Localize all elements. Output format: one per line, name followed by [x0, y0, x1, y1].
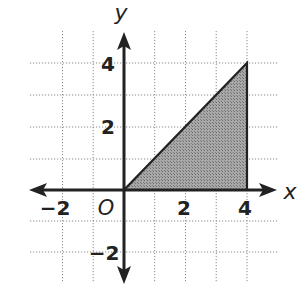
- x-tick-label-2: 2: [177, 196, 191, 220]
- y-tick-label-4: 4: [101, 52, 115, 76]
- y-axis-label: y: [113, 0, 128, 25]
- y-tick-label-neg2: −2: [89, 241, 120, 265]
- y-tick-label-2: 2: [101, 115, 115, 139]
- x-tick-label-4: 4: [238, 196, 252, 220]
- graph-svg: y x O −2 2 4 4 2 −2: [0, 0, 304, 296]
- coordinate-plane: y x O −2 2 4 4 2 −2: [0, 0, 304, 296]
- origin-label: O: [98, 196, 115, 220]
- x-tick-label-neg2: −2: [40, 196, 71, 220]
- x-axis-label: x: [282, 179, 297, 204]
